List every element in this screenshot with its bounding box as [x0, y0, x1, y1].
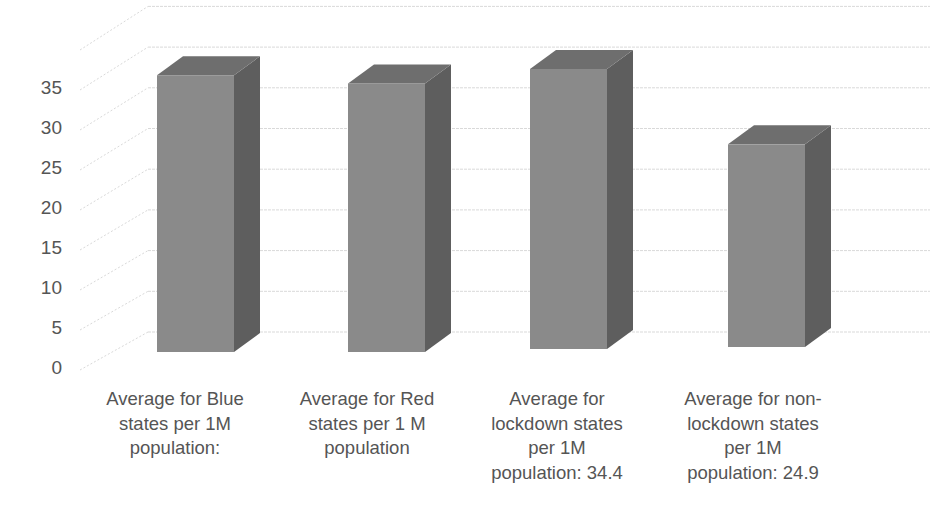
side-wall-gridline	[80, 169, 148, 210]
side-wall-gridline	[80, 88, 148, 130]
bar-side-face	[607, 50, 633, 349]
side-wall-gridline	[80, 291, 148, 330]
side-wall-gridline	[80, 332, 148, 370]
side-wall-gridline	[80, 210, 148, 250]
side-wall-gridline	[80, 6, 148, 50]
3d-bar-chart: 35 30 25 20 15 10 5 0 Average for Blue s…	[0, 0, 944, 532]
y-tick-label: 5	[22, 318, 62, 338]
y-tick-label: 30	[22, 118, 62, 138]
bar-front-face	[348, 83, 425, 352]
side-wall-gridline	[80, 47, 148, 90]
x-category-label: Average for Blue states per 1M populatio…	[80, 387, 270, 461]
bar-side-face	[805, 125, 831, 347]
y-tick-label: 15	[22, 238, 62, 258]
x-category-label: Average for Red states per 1 M populatio…	[272, 387, 462, 461]
side-wall-gridline	[80, 129, 148, 171]
bar-side-face	[234, 56, 260, 352]
y-tick-label: 0	[22, 358, 62, 378]
bar-front-face	[728, 144, 805, 347]
bar-side-face	[425, 64, 451, 352]
x-category-label: Average for non- lockdown states per 1M …	[658, 387, 848, 485]
x-category-label: Average for lockdown states per 1M popul…	[462, 387, 652, 485]
y-tick-label: 10	[22, 278, 62, 298]
side-wall-gridline	[80, 251, 148, 290]
bar-front-face	[157, 75, 234, 352]
y-tick-label: 35	[22, 78, 62, 98]
y-tick-label: 20	[22, 198, 62, 218]
bar-front-face	[530, 69, 607, 349]
y-tick-label: 25	[22, 158, 62, 178]
